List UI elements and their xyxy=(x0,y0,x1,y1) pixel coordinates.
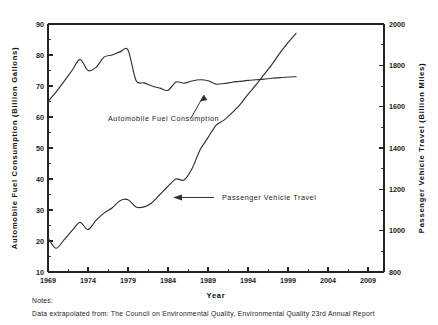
left-axis-tick-label: 70 xyxy=(36,82,44,91)
annotation-label-passenger-vehicle-travel: Passenger Vehicle Travel xyxy=(222,193,316,202)
left-axis-tick-label: 80 xyxy=(36,51,44,60)
right-axis-tick-label: 1200 xyxy=(389,185,405,194)
left-axis-tick-label: 90 xyxy=(36,20,44,29)
x-axis-tick-label: 1999 xyxy=(280,276,296,285)
x-axis-title: Year xyxy=(207,291,226,300)
right-axis-title: Passenger Vehicle Travel (Billion Miles) xyxy=(417,63,426,233)
notes-block: Notes:Data extrapolated from: The Counci… xyxy=(32,297,375,318)
x-axis-tick-label: 1994 xyxy=(240,276,256,285)
x-axis-tick-label: 2009 xyxy=(360,276,376,285)
right-axis-tick-label: 1000 xyxy=(389,226,405,235)
annotation-arrowhead-up-right xyxy=(200,95,207,102)
left-axis-title: Automobile Fuel Consumption (Billion Gal… xyxy=(10,47,19,249)
data-series xyxy=(48,33,296,248)
x-axis-tick-label: 2004 xyxy=(320,276,336,285)
annotation-label-automobile-fuel-consumption: Automobile Fuel Consumption xyxy=(108,114,219,123)
right-axis-tick-label: 1800 xyxy=(389,61,405,70)
left-axis-tick-label: 40 xyxy=(36,175,44,184)
x-axis-tick-label: 1984 xyxy=(160,276,176,285)
x-axis-tick-label: 1969 xyxy=(40,276,56,285)
left-axis-tick-label: 20 xyxy=(36,237,44,246)
chart-figure: 1020304050607080908001000120014001600180… xyxy=(0,0,438,325)
annotation-arrowhead-left xyxy=(173,194,182,200)
chart-annotations xyxy=(173,95,214,201)
right-axis-tick-label: 1600 xyxy=(389,102,405,111)
series-line-automobile-fuel-consumption xyxy=(48,48,296,101)
axes xyxy=(48,24,384,272)
right-axis-tick-label: 800 xyxy=(389,268,401,277)
notes-heading: Notes: xyxy=(32,297,53,304)
axis-labels: 1020304050607080908001000120014001600180… xyxy=(10,20,426,300)
x-axis-tick-label: 1974 xyxy=(80,276,96,285)
notes-line-1: Data extrapolated from: The Council on E… xyxy=(32,310,375,318)
x-axis-tick-label: 1979 xyxy=(120,276,136,285)
x-axis-tick-label: 1989 xyxy=(200,276,216,285)
left-axis-tick-label: 50 xyxy=(36,144,44,153)
chart-svg: 1020304050607080908001000120014001600180… xyxy=(0,0,438,325)
left-axis-tick-label: 30 xyxy=(36,206,44,215)
left-axis-tick-label: 60 xyxy=(36,113,44,122)
right-axis-tick-label: 2000 xyxy=(389,20,405,29)
right-axis-tick-label: 1400 xyxy=(389,144,405,153)
